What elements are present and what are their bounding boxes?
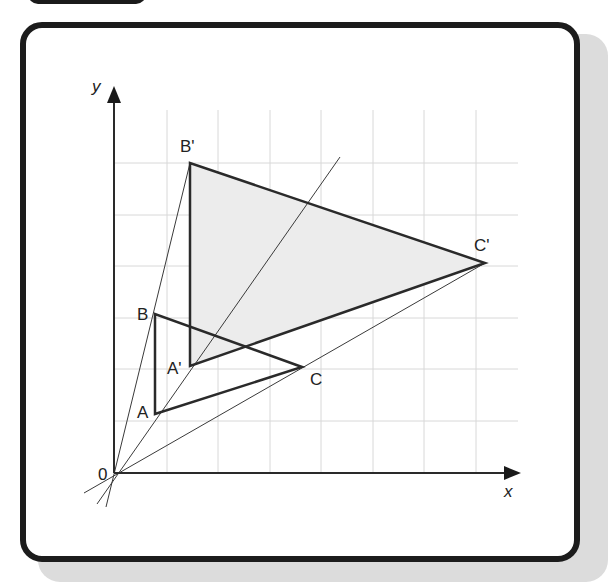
origin-label: 0 bbox=[98, 465, 107, 484]
triangle-image-fill bbox=[190, 163, 485, 366]
y-axis-arrow-icon bbox=[107, 86, 121, 103]
point-c-prime-label: C' bbox=[474, 236, 490, 255]
y-axis-label: y bbox=[91, 77, 102, 96]
point-a-label: A bbox=[137, 403, 149, 422]
point-a-prime-label: A' bbox=[167, 359, 182, 378]
point-b-label: B bbox=[137, 305, 148, 324]
x-axis-arrow-icon bbox=[504, 466, 521, 480]
point-c-label: C bbox=[310, 370, 322, 389]
enlargement-diagram: y x 0 A B C A' B' C' bbox=[0, 0, 614, 588]
point-b-prime-label: B' bbox=[180, 137, 195, 156]
x-axis-label: x bbox=[503, 482, 513, 501]
